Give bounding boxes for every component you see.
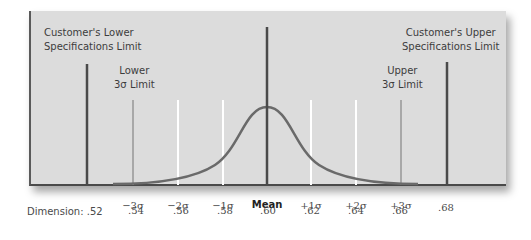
upper-spec-label: Customer's Upper Specifications Limit: [402, 26, 499, 54]
dimension-value-58: .58: [217, 205, 233, 216]
lower-spec-label-line1: Customer's Lower: [44, 26, 141, 40]
dimension-label-text: Dimension:: [27, 206, 84, 217]
lower-spec-label-line2: Specifications Limit: [44, 40, 141, 54]
bell-curve: [113, 107, 418, 184]
dimension-value-56: .56: [173, 205, 189, 216]
dimension-value-62: .62: [304, 205, 320, 216]
dimension-value-68: .68: [438, 202, 454, 213]
lower-3sigma-label-line2: 3σ Limit: [114, 78, 155, 92]
lower-spec-label: Customer's Lower Specifications Limit: [44, 26, 141, 54]
dimension-value-60: .60: [260, 205, 276, 216]
upper-3sigma-label-line2: 3σ Limit: [382, 78, 423, 92]
dimension-label: Dimension: .52: [27, 206, 103, 217]
upper-3sigma-label-line1: Upper: [382, 64, 423, 78]
dimension-value-64: .64: [348, 205, 364, 216]
lower-3sigma-label-line1: Lower: [114, 64, 155, 78]
upper-3sigma-label: Upper 3σ Limit: [382, 64, 423, 92]
dimension-value-66: .66: [392, 205, 408, 216]
upper-spec-label-line1: Customer's Upper: [402, 26, 499, 40]
dimension-value-54: .54: [128, 205, 144, 216]
lower-3sigma-label: Lower 3σ Limit: [114, 64, 155, 92]
upper-spec-label-line2: Specifications Limit: [402, 40, 499, 54]
dimension-value-52: .52: [87, 206, 103, 217]
